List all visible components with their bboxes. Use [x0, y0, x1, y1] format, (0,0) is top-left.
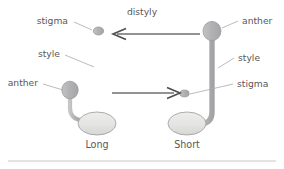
label-right-style: style	[238, 52, 260, 63]
label-right-anther: anther	[242, 15, 273, 26]
right-ovary	[168, 112, 206, 135]
left-ovary	[78, 112, 116, 135]
leader-right-anther	[222, 21, 238, 28]
label-left-style: style	[38, 48, 60, 59]
right-anther-head	[203, 21, 221, 40]
leader-left-style	[65, 55, 94, 67]
distyly-diagram: stigma style anther distyly anther style…	[0, 0, 284, 169]
left-anther-filament	[70, 98, 80, 120]
diagram-canvas: stigma style anther distyly anther style…	[0, 0, 284, 169]
left-stigma-knob	[93, 27, 103, 35]
label-right-stigma: stigma	[237, 78, 268, 89]
caption-long-morph: Long	[85, 139, 108, 150]
label-left-anther: anther	[8, 77, 39, 88]
caption-short-morph: Short	[174, 139, 200, 150]
right-stigma-knob	[180, 90, 189, 97]
leader-left-anther	[43, 84, 63, 90]
leader-left-stigma	[74, 22, 92, 30]
arrow-short-to-long	[113, 29, 200, 40]
label-left-stigma: stigma	[37, 15, 68, 26]
arrow-long-to-short	[112, 88, 180, 99]
flower-short-morph	[168, 21, 221, 135]
left-anther-head	[62, 81, 78, 99]
flower-long-morph	[62, 27, 116, 135]
label-distyly: distyly	[127, 6, 158, 17]
right-anther-filament	[201, 33, 212, 124]
leader-right-style	[218, 58, 234, 68]
